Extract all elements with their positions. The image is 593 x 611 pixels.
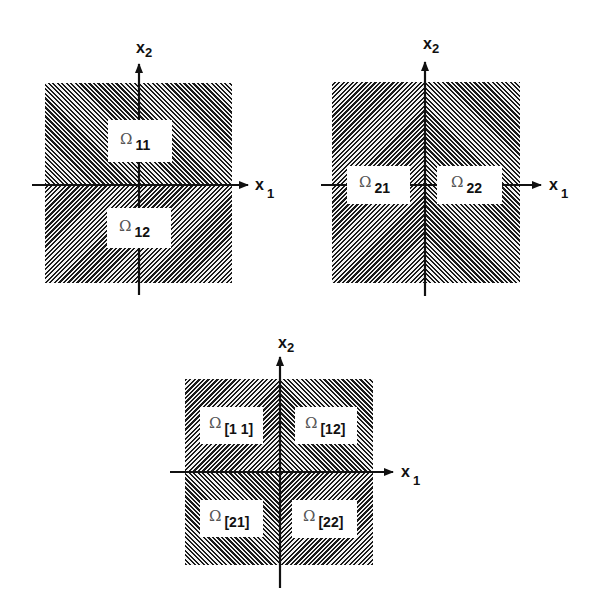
region-subscript: [22] [318, 515, 343, 529]
x1-axis-label: x1 [401, 464, 420, 480]
region-box-omega-21-quadrant: Ω [21] [200, 500, 263, 537]
omega-symbol: Ω [209, 416, 221, 431]
omega-symbol: Ω [209, 509, 221, 524]
region-subscript: [1 1] [224, 422, 253, 436]
region-box-omega-22-quadrant: Ω [22] [292, 500, 357, 538]
x2-axis-label: x2 [278, 335, 294, 351]
region-subscript: [21] [224, 515, 249, 529]
region-box-omega-11-quadrant: Ω [1 1] [200, 407, 263, 444]
omega-symbol: Ω [303, 509, 315, 524]
region-subscript: [12] [320, 422, 345, 436]
omega-symbol: Ω [305, 416, 317, 431]
region-box-omega-12-quadrant: Ω [12] [295, 407, 357, 444]
diagram-quadrant-partition: Ω [1 1] Ω [12] Ω [21] Ω [22] x2 x1 [0, 0, 593, 611]
